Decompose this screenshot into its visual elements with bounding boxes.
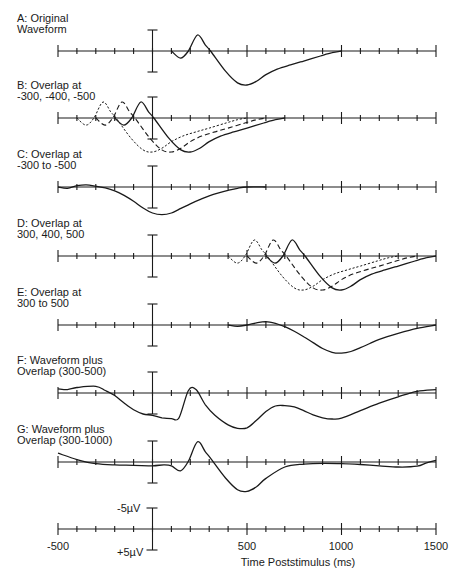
scale-top-label: -5µV: [117, 502, 141, 514]
panel-F-label-line: Overlap (300-500): [17, 365, 106, 377]
scale-labels: -5µV +5µV -500 500 1000 1500 Time Postst…: [47, 502, 448, 568]
waveform-dotted: [228, 240, 398, 290]
waveform-solid: [266, 240, 436, 290]
panel-C-label-line: -300 to -500: [17, 159, 76, 171]
waveform-dashed: [247, 240, 417, 290]
waveform-solid: [58, 185, 266, 215]
tick-label-neg500: -500: [47, 540, 69, 552]
panel-B-label-line: -300, -400, -500: [17, 90, 95, 102]
panel-D: D: Overlap at300, 400, 500: [17, 217, 436, 290]
tick-label-500: 500: [238, 540, 256, 552]
panel-F: F: Waveform plusOverlap (300-500): [17, 354, 436, 429]
panel-E: E: Overlap at300 to 500: [17, 286, 436, 353]
waveform-solid: [171, 35, 341, 85]
panels-group: A: OriginalWaveformB: Overlap at-300, -4…: [17, 12, 436, 550]
x-axis-title: Time Poststimulus (ms): [241, 556, 356, 568]
panel-D-label-line: 300, 400, 500: [17, 228, 84, 240]
panel-A-label-line: Waveform: [17, 23, 67, 35]
waveform-dotted: [77, 102, 247, 152]
panel-B: B: Overlap at-300, -400, -500: [17, 79, 436, 152]
waveform-solid: [115, 102, 285, 152]
waveform-dashed: [96, 102, 266, 152]
panel-E-label-line: 300 to 500: [17, 297, 69, 309]
panel-A: A: OriginalWaveform: [17, 12, 436, 85]
scale-bottom-label: +5µV: [117, 546, 144, 558]
tick-label-1000: 1000: [329, 540, 353, 552]
panel-C: C: Overlap at-300 to -500: [17, 148, 436, 215]
waveform-solid: [228, 322, 436, 354]
tick-label-1500: 1500: [424, 540, 448, 552]
erp-overlap-figure: A: OriginalWaveformB: Overlap at-300, -4…: [0, 0, 465, 584]
panel-G-label-line: Overlap (300-1000): [17, 434, 112, 446]
panel-G: G: Waveform plusOverlap (300-1000): [17, 423, 436, 492]
